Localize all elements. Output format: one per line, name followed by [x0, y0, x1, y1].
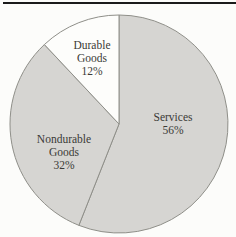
pie-chart: Services56%NondurableGoods32%DurableGood…: [0, 0, 236, 237]
economic-sectors-pie-figure: Services56%NondurableGoods32%DurableGood…: [0, 0, 236, 237]
